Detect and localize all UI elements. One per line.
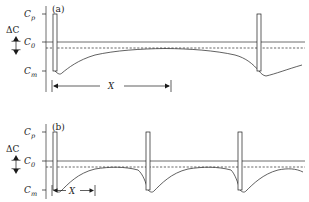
panel-b-spike-1: [53, 132, 57, 190]
panel-b-dimension-x: X: [52, 185, 95, 196]
panel-a-concentration-curve: [55, 49, 302, 77]
panel-b-spike-2: [146, 132, 150, 190]
panel-a-spike-1: [53, 14, 57, 71]
panel-a-delta-label: ΔC: [6, 25, 19, 35]
panel-b: (b) Cp C0 Cm ΔC: [6, 122, 305, 199]
panel-b-spike-3: [238, 132, 242, 190]
panel-b-concentration-curve: [55, 167, 303, 192]
panel-a-label-cm: Cm: [24, 66, 37, 79]
panel-b-dimension-label: X: [68, 186, 76, 196]
panel-a-delta-arrow: [12, 36, 21, 55]
panel-b-delta-label: ΔC: [6, 144, 19, 154]
panel-b-label: (b): [52, 122, 65, 132]
panel-a-dimension-label: X: [107, 81, 115, 91]
panel-a-label-cp: Cp: [24, 9, 36, 22]
panel-a-spike-2: [257, 14, 261, 71]
panel-a: (a) Cp C0 Cm ΔC: [6, 4, 305, 92]
panel-b-label-cm: Cm: [24, 185, 37, 198]
panel-a-label: (a): [52, 4, 64, 14]
panel-b-delta-arrow: [12, 155, 21, 174]
panel-a-label-c0: C0: [24, 37, 35, 50]
panel-b-label-cp: Cp: [24, 127, 36, 140]
panel-b-label-c0: C0: [24, 156, 35, 169]
concentration-profile-figure: (a) Cp C0 Cm ΔC: [0, 0, 309, 202]
panel-a-dimension-x: X: [52, 80, 171, 92]
